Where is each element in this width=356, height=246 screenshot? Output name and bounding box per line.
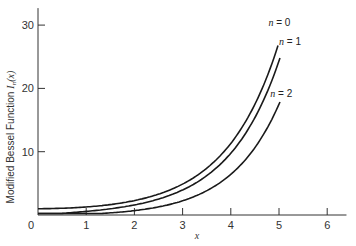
x-tick-label: 1 — [83, 219, 89, 231]
curve-n-0 — [38, 46, 278, 209]
x-axis-title: x — [194, 230, 200, 241]
x-tick-label: 2 — [131, 219, 137, 231]
y-axis-title: Modified Bessel Function In(x) — [4, 70, 18, 203]
x-tick-label: 5 — [276, 219, 282, 231]
y-tick-label: 20 — [22, 82, 34, 94]
x-tick-label: 3 — [180, 219, 186, 231]
curves — [38, 46, 280, 214]
curve-label-n-1: n = 1 — [279, 36, 301, 47]
x-tick-label: 4 — [228, 219, 234, 231]
curve-n-2 — [38, 102, 280, 214]
curve-label-n-2: n = 2 — [270, 88, 292, 99]
y-tick-label: 10 — [22, 146, 34, 158]
curve-n-1 — [38, 58, 280, 213]
x-tick-label: 0 — [28, 219, 34, 231]
x-tick-label: 6 — [324, 219, 330, 231]
bessel-chart: 0123456102030 xModified Bessel Function … — [0, 0, 356, 246]
curve-label-n-0: n = 0 — [268, 17, 290, 28]
y-tick-label: 30 — [22, 19, 34, 31]
